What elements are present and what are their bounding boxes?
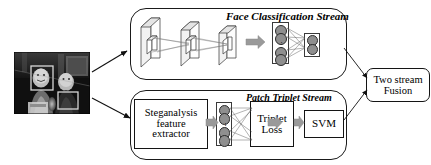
block-arrow-face-to-fc	[246, 36, 265, 49]
figure-canvas: Face Classification Stream ⋮ Patch Tripl…	[0, 0, 431, 165]
conv-block-1	[141, 18, 160, 67]
arrow-face-to-fusion	[344, 48, 367, 78]
conv-block-2	[181, 22, 199, 66]
block-arrow-fc-to-triplet	[268, 116, 282, 129]
connector-overlay	[0, 0, 431, 165]
patch-fc-connections	[230, 108, 252, 140]
arrow-photo-to-face-stream	[92, 51, 127, 72]
arrow-patch-to-fusion	[344, 90, 367, 120]
conv-block-3	[219, 26, 236, 65]
face-fc-connections	[287, 28, 305, 58]
block-arrow-triplet-to-svm	[294, 116, 304, 129]
cnn-conv-blocks	[141, 18, 236, 67]
arrow-photo-to-patch-stream	[92, 98, 130, 118]
block-arrow-steg-to-fc	[206, 116, 218, 129]
